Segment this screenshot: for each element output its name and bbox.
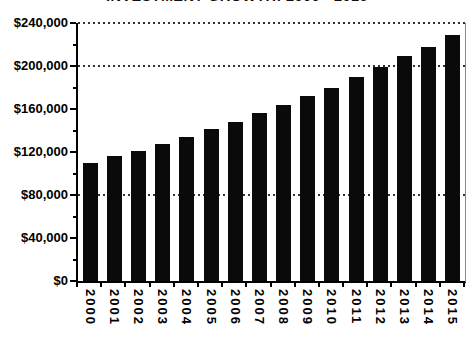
x-tick-12 (366, 283, 368, 287)
x-tick-13 (390, 283, 392, 287)
bar-2006 (228, 122, 243, 281)
x-tick-5 (197, 283, 199, 287)
x-tick-16 (463, 283, 465, 287)
x-axis-label-2002: 2002 (131, 289, 146, 326)
x-tick-1 (100, 283, 102, 287)
y-axis-label-200000: $200,000 (14, 58, 68, 74)
x-axis-label-2015: 2015 (445, 289, 460, 326)
bar-2010 (324, 88, 339, 282)
y-axis-label-240000: $240,000 (14, 15, 68, 31)
bar-2003 (155, 144, 170, 281)
bar-2004 (179, 137, 194, 281)
bar-2011 (349, 77, 364, 281)
x-tick-7 (245, 283, 247, 287)
x-axis-label-2011: 2011 (349, 289, 364, 325)
x-axis-label-2005: 2005 (204, 289, 219, 326)
y-axis-labels: $0$40,000$80,000$120,000$160,000$200,000… (0, 23, 68, 281)
x-axis-label-2000: 2000 (83, 289, 98, 326)
bar-2002 (131, 151, 146, 281)
x-tick-14 (415, 283, 417, 287)
y-axis-label-120000: $120,000 (14, 144, 68, 160)
x-tick-11 (342, 283, 344, 287)
x-axis-label-2004: 2004 (179, 289, 194, 326)
x-axis-label-2009: 2009 (300, 289, 315, 326)
bar-2014 (421, 47, 436, 281)
bar-2000 (83, 163, 98, 281)
x-tick-3 (149, 283, 151, 287)
gridline-240000 (78, 22, 465, 24)
x-tick-4 (173, 283, 175, 287)
plot-area (76, 23, 466, 283)
x-axis-label-2007: 2007 (252, 289, 267, 326)
x-axis-label-2003: 2003 (155, 289, 170, 326)
x-tick-15 (439, 283, 441, 287)
y-axis-label-160000: $160,000 (14, 101, 68, 117)
x-tick-0 (76, 283, 78, 287)
bar-2012 (373, 67, 388, 281)
x-axis-label-2013: 2013 (397, 289, 412, 326)
chart-title: INVESTMENT GROWTH: 2000 - 2015 (0, 0, 474, 4)
bar-2009 (300, 96, 315, 281)
x-tick-8 (270, 283, 272, 287)
y-axis-label-0: $0 (54, 273, 68, 289)
x-tick-9 (294, 283, 296, 287)
y-axis-label-80000: $80,000 (21, 187, 68, 203)
x-axis-label-2006: 2006 (228, 289, 243, 326)
x-axis-ticks (76, 283, 465, 287)
x-tick-10 (318, 283, 320, 287)
x-tick-6 (221, 283, 223, 287)
bar-2008 (276, 105, 291, 281)
bar-2005 (204, 129, 219, 281)
x-axis-label-2012: 2012 (373, 289, 388, 326)
x-axis-label-2014: 2014 (421, 289, 436, 326)
bar-2007 (252, 113, 267, 281)
x-tick-2 (124, 283, 126, 287)
y-axis-label-40000: $40,000 (21, 230, 68, 246)
x-axis-labels: 2000200120022003200420052006200720082009… (78, 289, 465, 338)
bar-2001 (107, 156, 122, 281)
x-axis-label-2008: 2008 (276, 289, 291, 326)
bar-chart: INVESTMENT GROWTH: 2000 - 2015 $0$40,000… (0, 0, 474, 338)
bar-2013 (397, 56, 412, 281)
x-axis-label-2001: 2001 (107, 289, 122, 326)
x-axis-label-2010: 2010 (324, 289, 339, 326)
bar-2015 (445, 35, 460, 281)
